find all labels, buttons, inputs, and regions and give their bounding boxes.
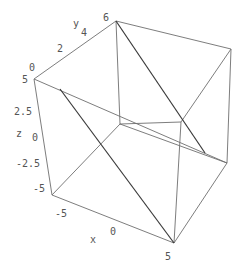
box-edge-top-back-left [34,21,116,79]
z-tick-2-5: 2.5 [14,106,32,117]
z-tick-neg-5: -5 [33,183,45,194]
z-tick-5: 5 [22,74,28,85]
y-tick-0: 0 [29,62,35,73]
box-edge-top-right [227,49,231,163]
z-tick-neg-2-5: -2.5 [16,158,40,169]
box-edge-back-right-diag [181,49,231,122]
y-axis: 0 2 4 6 y [29,12,109,73]
y-tick-2: 2 [57,43,63,54]
y-axis-label: y [73,18,79,29]
z-axis: 5 2.5 0 -2.5 -5 z [14,74,45,194]
x-tick-0: 0 [110,226,116,237]
box-edge-top-back-right [116,21,231,49]
box-edge-bottom-back-mid [120,122,181,124]
box-edge-top-front [34,79,227,163]
plot-canvas: 0 2 4 6 y 5 2.5 0 -2.5 -5 z -5 0 5 x [0,0,250,269]
curve-line-upper [116,21,205,153]
curve-line-lower [60,89,174,243]
z-tick-0: 0 [32,132,38,143]
box-edge-bottom-right [174,163,227,243]
box-edge-back-vertical [116,21,120,124]
box-edge-bottom-back [120,124,227,163]
x-tick-5: 5 [165,251,171,262]
x-tick-neg-5: -5 [55,208,67,219]
z-axis-label: z [16,128,22,139]
x-axis-label: x [90,234,96,245]
plot-curves [60,21,205,243]
box-edge-bottom-back-left [52,124,120,195]
3d-plot: 0 2 4 6 y 5 2.5 0 -2.5 -5 z -5 0 5 x [0,0,250,269]
y-tick-4: 4 [81,27,87,38]
y-tick-6: 6 [103,12,109,23]
